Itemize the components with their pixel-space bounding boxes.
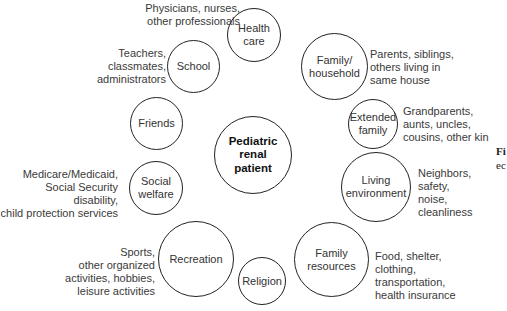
node-label: School [177, 60, 211, 73]
node-religion: Religion [238, 257, 286, 305]
node-label: Family resources [307, 247, 355, 273]
node-label: Health care [238, 22, 270, 48]
figure-caption-label: Fi [496, 145, 506, 157]
node-family-household: Family/ household [301, 33, 368, 100]
node-label: Extended family [350, 111, 396, 137]
note-living-environment: Neighbors, safety, noise, cleanliness [418, 167, 498, 219]
node-friends: Friends [130, 97, 183, 150]
figure-caption-text: ec [496, 159, 506, 171]
note-family-household: Parents, siblings, others living in same… [370, 48, 480, 87]
node-label: Living environment [346, 174, 407, 200]
node-social-welfare: Social welfare [129, 161, 183, 215]
note-extended-family: Grandparents, aunts, uncles, cousins, ot… [403, 105, 507, 144]
node-recreation: Recreation [158, 221, 234, 297]
note-family-resources: Food, shelter, clothing, transportation,… [375, 250, 495, 302]
node-school: School [167, 40, 220, 93]
node-label: Recreation [169, 253, 222, 266]
node-extended-family: Extended family [348, 99, 398, 149]
note-social-welfare: Medicare/Medicaid, Social Security disab… [0, 168, 118, 220]
node-label: Religion [242, 275, 282, 288]
note-health-care: Physicians, nurses, other professionals [130, 2, 240, 28]
node-label: Family/ household [309, 54, 360, 80]
node-living-environment: Living environment [341, 152, 411, 222]
node-label: Social welfare [138, 175, 173, 201]
node-label: Pediatric renal patient [229, 135, 278, 176]
node-family-resources: Family resources [294, 222, 369, 297]
node-pediatric-renal-patient: Pediatric renal patient [214, 116, 292, 194]
node-label: Friends [138, 117, 175, 130]
note-school: Teachers, classmates, administrators [80, 47, 166, 86]
note-recreation: Sports, other organized activities, hobb… [54, 246, 155, 298]
